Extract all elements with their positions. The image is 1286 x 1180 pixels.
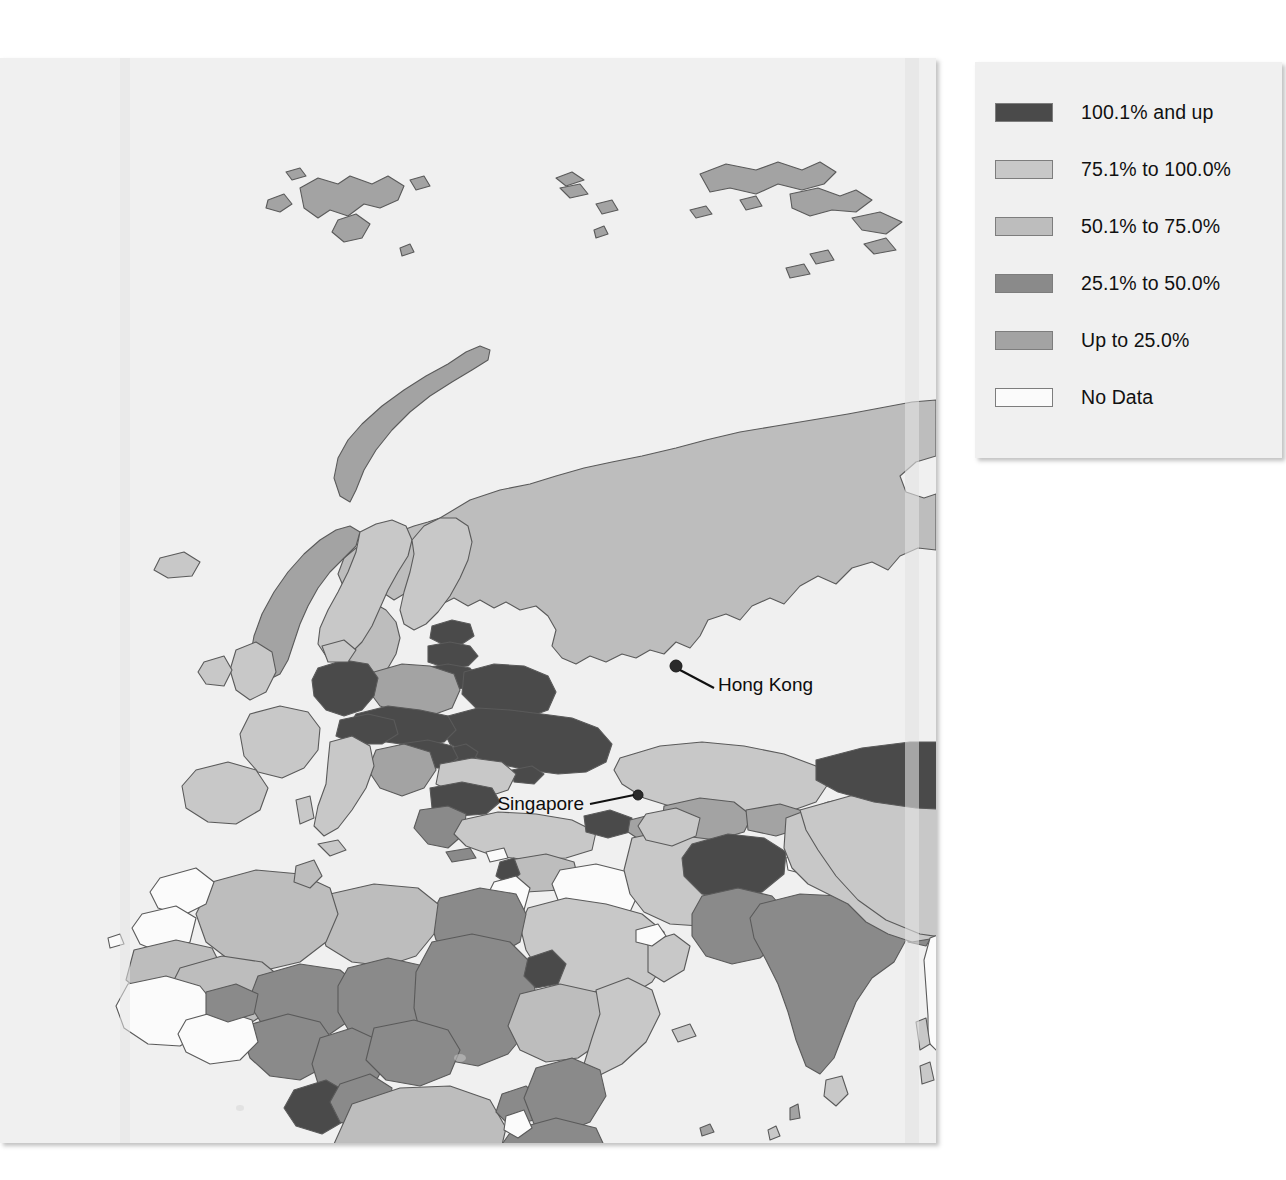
legend-row-bin-50-75[interactable]: 50.1% to 75.0% bbox=[995, 198, 1272, 255]
hong-kong-label: Hong Kong bbox=[718, 674, 813, 695]
paper-fold-band bbox=[120, 58, 130, 1143]
world-map-svg[interactable]: Hong Kong Singapore bbox=[0, 58, 936, 1143]
paper-smudge-a bbox=[454, 1054, 466, 1062]
legend-list: 100.1% and up 75.1% to 100.0% 50.1% to 7… bbox=[995, 84, 1272, 426]
legend-label-bin-0-25: Up to 25.0% bbox=[1081, 329, 1189, 352]
legend-label-bin-nodata: No Data bbox=[1081, 386, 1153, 409]
legend-row-bin-100-up[interactable]: 100.1% and up bbox=[995, 84, 1272, 141]
legend-label-bin-100-up: 100.1% and up bbox=[1081, 101, 1214, 124]
singapore-label: Singapore bbox=[497, 793, 584, 814]
legend-row-bin-0-25[interactable]: Up to 25.0% bbox=[995, 312, 1272, 369]
legend-swatch-bin-75-100 bbox=[995, 160, 1053, 179]
legend-swatch-bin-100-up bbox=[995, 103, 1053, 122]
paper-fold-band-2 bbox=[905, 58, 919, 1143]
legend-swatch-bin-25-50 bbox=[995, 274, 1053, 293]
country-latvia[interactable] bbox=[428, 642, 478, 668]
map-panel[interactable]: Hong Kong Singapore bbox=[0, 58, 936, 1143]
legend-row-bin-nodata[interactable]: No Data bbox=[995, 369, 1272, 426]
legend-panel[interactable]: 100.1% and up 75.1% to 100.0% 50.1% to 7… bbox=[975, 62, 1282, 458]
singapore-dot bbox=[633, 790, 643, 800]
legend-row-bin-75-100[interactable]: 75.1% to 100.0% bbox=[995, 141, 1272, 198]
legend-label-bin-75-100: 75.1% to 100.0% bbox=[1081, 158, 1231, 181]
legend-row-bin-25-50[interactable]: 25.1% to 50.0% bbox=[995, 255, 1272, 312]
legend-label-bin-25-50: 25.1% to 50.0% bbox=[1081, 272, 1220, 295]
legend-swatch-bin-50-75 bbox=[995, 217, 1053, 236]
legend-label-bin-50-75: 50.1% to 75.0% bbox=[1081, 215, 1220, 238]
legend-swatch-bin-0-25 bbox=[995, 331, 1053, 350]
legend-swatch-bin-nodata bbox=[995, 388, 1053, 407]
paper-smudge-b bbox=[236, 1105, 244, 1111]
